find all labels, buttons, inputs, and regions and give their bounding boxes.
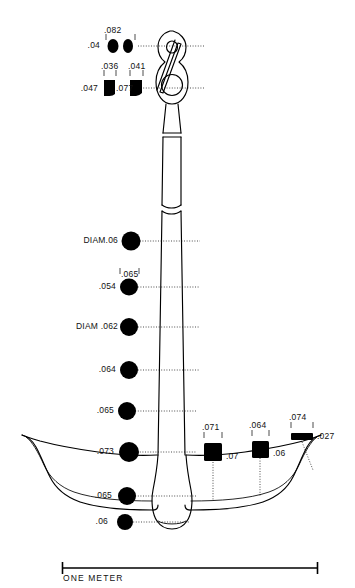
section-shapes-top-ovals bbox=[108, 39, 134, 53]
label-07-right: .07 bbox=[226, 452, 238, 461]
label-06-right: .06 bbox=[273, 449, 285, 458]
label-071-above: .071 bbox=[202, 423, 219, 432]
label-047: .047 bbox=[66, 84, 98, 93]
label-top-span-082: .082 bbox=[104, 26, 121, 35]
label-064-left: .064 bbox=[78, 365, 116, 374]
label-036: .036 bbox=[101, 62, 118, 71]
anchor-drawing-canvas bbox=[0, 0, 355, 588]
label-077: .077 bbox=[116, 84, 133, 93]
section-shapes-right-column bbox=[204, 433, 313, 461]
label-054: .054 bbox=[76, 282, 116, 291]
label-041: .041 bbox=[128, 62, 145, 71]
label-065-left-b: .065 bbox=[74, 491, 112, 500]
label-06-left: .06 bbox=[76, 517, 108, 526]
leader-lines-left bbox=[128, 46, 205, 522]
scale-bar-caption: ONE METER bbox=[63, 573, 123, 583]
label-073: .073 bbox=[76, 447, 114, 456]
label-top-left-04: .04 bbox=[78, 41, 100, 50]
label-074-above: .074 bbox=[289, 413, 306, 422]
anchor-figure: .082 .04 .036 .041 .047 .077 DIAM.06 .06… bbox=[0, 0, 355, 588]
label-diam-06: DIAM.06 bbox=[56, 236, 118, 245]
label-064-above: .064 bbox=[249, 421, 266, 430]
label-027-right: .027 bbox=[317, 432, 334, 441]
label-065-ellipse-above: .065 bbox=[121, 270, 138, 279]
label-diam-062: DIAM .062 bbox=[52, 322, 118, 331]
label-065-left-a: .065 bbox=[76, 406, 114, 415]
